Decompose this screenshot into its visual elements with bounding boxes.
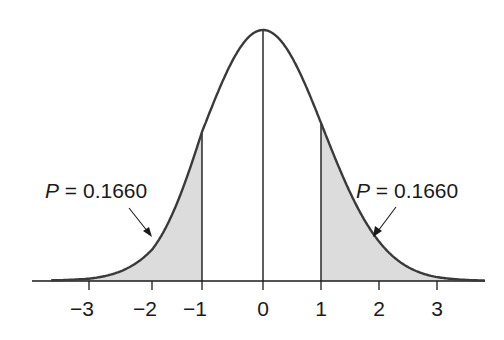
- vertical-reference-lines: [202, 30, 321, 281]
- x-axis-ticks: [89, 281, 437, 290]
- x-tick-label: −3: [70, 297, 94, 320]
- normal-curve: [51, 30, 485, 281]
- x-tick-label: −1: [183, 297, 207, 320]
- left-p-annotation: P = 0.1660: [45, 179, 152, 237]
- x-axis-tick-labels: −3−2−10123: [70, 297, 443, 320]
- right-p-annotation: P = 0.1660: [356, 179, 458, 237]
- x-tick-label: 3: [431, 297, 443, 320]
- right-arrow-shaft: [378, 207, 396, 231]
- x-tick-label: −2: [133, 297, 157, 320]
- x-tick-label: 1: [315, 297, 327, 320]
- left-arrow-shaft: [129, 208, 148, 232]
- x-tick-label: 0: [257, 297, 269, 320]
- normal-distribution-figure: −3−2−10123 P = 0.1660 P = 0.1660: [0, 0, 504, 340]
- right-p-label: P = 0.1660: [356, 179, 458, 202]
- left-p-label: P = 0.1660: [45, 179, 147, 202]
- x-tick-label: 2: [373, 297, 385, 320]
- left-arrow-head-icon: [143, 227, 152, 237]
